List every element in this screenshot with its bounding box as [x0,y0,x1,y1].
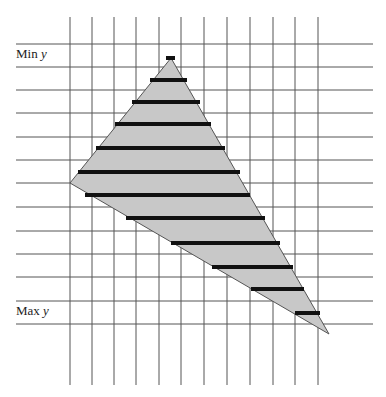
min-y-label: Min y [16,46,47,62]
scanline-span [166,56,175,60]
scanline-span [126,216,265,220]
scanline-span [295,311,320,315]
scanline-span [251,287,304,291]
scanline-span [85,193,250,197]
scanline-span [78,170,240,174]
max-y-label: Max y [16,303,49,319]
scanline-span [150,78,187,82]
scanline-span [96,146,225,150]
scanline-span [132,100,200,104]
scanline-span [212,265,293,269]
scanline-diagram [0,0,386,397]
scanline-span [171,241,280,245]
scanline-span [115,122,211,126]
